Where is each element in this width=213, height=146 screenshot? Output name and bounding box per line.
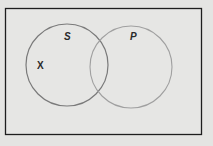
set-p-label: P (130, 31, 137, 42)
x-mark-label: X (37, 60, 44, 71)
set-s-label: S (64, 31, 71, 42)
venn-diagram: S P X (0, 0, 213, 146)
